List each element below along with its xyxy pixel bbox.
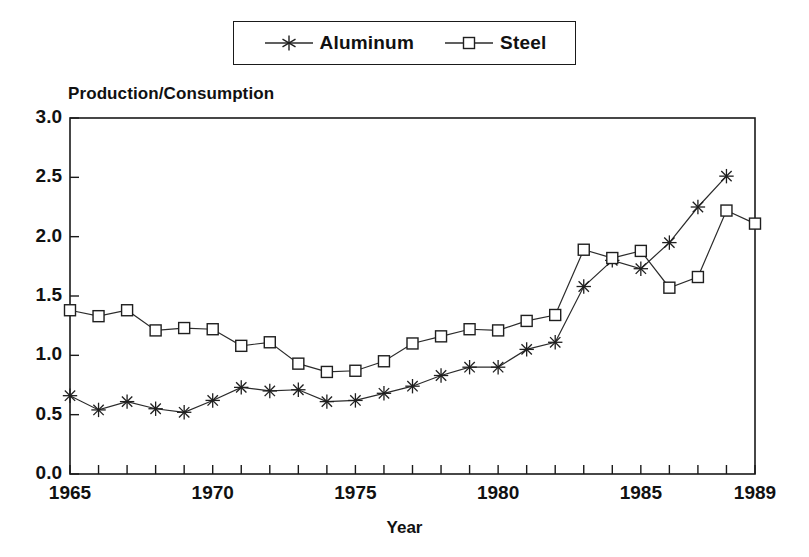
data-point-marker <box>548 335 562 349</box>
data-point-marker <box>750 218 761 229</box>
data-point-marker <box>378 356 389 367</box>
data-point-marker <box>350 365 361 376</box>
data-point-marker <box>234 380 248 394</box>
data-point-marker <box>719 169 733 183</box>
series-layer <box>63 169 761 420</box>
data-point-marker <box>634 262 648 276</box>
data-point-marker <box>177 405 191 419</box>
data-point-marker <box>236 340 247 351</box>
data-point-marker <box>320 394 334 408</box>
data-point-marker <box>122 305 133 316</box>
data-point-marker <box>93 311 104 322</box>
y-tick-label: 1.0 <box>6 343 62 365</box>
data-point-marker <box>291 383 305 397</box>
data-point-marker <box>91 403 105 417</box>
data-point-marker <box>263 384 277 398</box>
data-point-marker <box>664 282 675 293</box>
data-point-marker <box>148 402 162 416</box>
data-point-marker <box>721 205 732 216</box>
data-point-marker <box>462 360 476 374</box>
data-point-marker <box>662 235 676 249</box>
data-point-marker <box>521 315 532 326</box>
y-tick-label: 2.5 <box>6 165 62 187</box>
data-point-marker <box>434 368 448 382</box>
data-point-marker <box>120 394 134 408</box>
data-point-marker <box>207 324 218 335</box>
data-point-marker <box>150 325 161 336</box>
data-point-marker <box>206 393 220 407</box>
data-point-marker <box>692 272 703 283</box>
data-point-marker <box>63 388 77 402</box>
x-tick-label: 1985 <box>601 482 681 504</box>
data-point-marker <box>377 386 391 400</box>
x-tick-label: 1975 <box>315 482 395 504</box>
x-tick-label: 1970 <box>173 482 253 504</box>
y-axis-ticks <box>70 118 79 474</box>
data-point-marker <box>407 338 418 349</box>
data-point-marker <box>179 323 190 334</box>
data-point-marker <box>550 309 561 320</box>
data-point-marker <box>691 200 705 214</box>
data-point-marker <box>577 279 591 293</box>
data-point-marker <box>519 342 533 356</box>
data-point-marker <box>607 253 618 264</box>
data-point-marker <box>405 379 419 393</box>
x-axis-ticks <box>70 465 755 474</box>
x-tick-label: 1965 <box>30 482 110 504</box>
chart-figure: Aluminum Steel Production/Consumption Ye… <box>0 0 809 557</box>
data-point-marker <box>264 337 275 348</box>
x-tick-label: 1989 <box>715 482 795 504</box>
series-steel <box>65 205 761 377</box>
data-point-marker <box>321 366 332 377</box>
data-point-marker <box>464 324 475 335</box>
data-point-marker <box>635 245 646 256</box>
plot-frame <box>70 118 755 474</box>
series-aluminum <box>63 169 734 420</box>
y-tick-label: 1.5 <box>6 284 62 306</box>
y-tick-label: 3.0 <box>6 106 62 128</box>
data-point-marker <box>578 244 589 255</box>
data-point-marker <box>65 305 76 316</box>
y-tick-label: 0.0 <box>6 462 62 484</box>
data-point-marker <box>348 393 362 407</box>
y-tick-label: 0.5 <box>6 403 62 425</box>
x-tick-label: 1980 <box>458 482 538 504</box>
data-point-marker <box>493 325 504 336</box>
plot-area <box>0 0 809 557</box>
y-tick-label: 2.0 <box>6 225 62 247</box>
data-point-marker <box>491 360 505 374</box>
data-point-marker <box>436 331 447 342</box>
data-point-marker <box>293 358 304 369</box>
